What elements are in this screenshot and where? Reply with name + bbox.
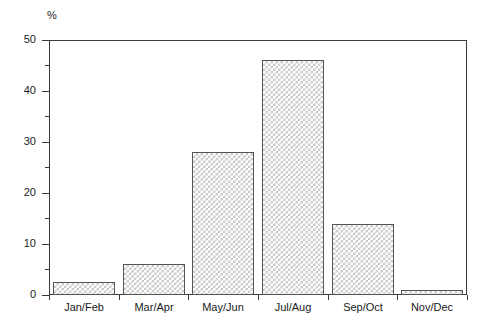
x-axis-category-label: Sep/Oct [328,301,398,314]
bar [123,264,185,295]
bar [401,290,463,295]
y-axis-tick-label: 10 [6,238,36,249]
plot-area-frame [49,40,467,295]
y-axis-tick-label: 40 [6,85,36,96]
bar [192,152,254,295]
x-axis-tick [397,295,398,300]
x-axis-tick [328,295,329,300]
x-axis-tick [467,295,468,300]
y-axis-tick-label: 20 [6,187,36,198]
x-axis-category-label: Nov/Dec [397,301,467,314]
y-axis-tick-minor [45,116,49,117]
x-axis-category-label: May/Jun [188,301,258,314]
y-axis-tick-label: 30 [6,136,36,147]
y-axis-unit-label: % [47,9,57,21]
x-axis-tick [258,295,259,300]
bar [262,60,324,295]
bar [332,224,394,295]
y-axis-tick-minor [45,218,49,219]
bar-chart: % 01020304050 Jan/FebMar/AprMay/JunJul/A… [0,0,487,332]
y-axis-tick-label: 50 [6,34,36,45]
y-axis-tick-minor [45,269,49,270]
y-axis-tick-minor [45,65,49,66]
y-axis-tick-label: 0 [6,289,36,300]
y-axis-tick-minor [45,167,49,168]
x-axis-tick [188,295,189,300]
y-axis-tick-major [42,244,49,245]
x-axis-category-label: Mar/Apr [119,301,189,314]
y-axis-tick-major [42,193,49,194]
x-axis-category-label: Jan/Feb [49,301,119,314]
y-axis-tick-major [42,295,49,296]
y-axis-tick-major [42,40,49,41]
bar [53,282,115,295]
x-axis-tick [119,295,120,300]
y-axis-tick-major [42,142,49,143]
y-axis-tick-major [42,91,49,92]
x-axis-tick [49,295,50,300]
x-axis-category-label: Jul/Aug [258,301,328,314]
